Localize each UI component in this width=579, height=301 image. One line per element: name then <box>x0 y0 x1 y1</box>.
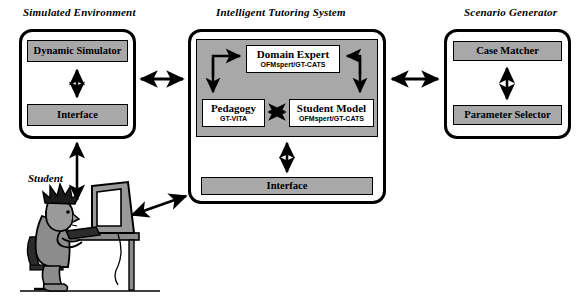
module-student-model-title: Student Model <box>297 103 366 115</box>
module-student-model-subtitle: OFMspert/GT-CATS <box>299 115 364 123</box>
module-pedagogy-title: Pedagogy <box>211 103 256 115</box>
diagram-canvas: Simulated Environment Intelligent Tutori… <box>0 0 579 301</box>
box-dynamic-simulator[interactable]: Dynamic Simulator <box>27 40 128 62</box>
title-scenario-generator: Scenario Generator <box>464 6 557 18</box>
box-case-matcher[interactable]: Case Matcher <box>453 41 562 61</box>
title-simulated-environment: Simulated Environment <box>23 6 136 18</box>
title-intelligent-tutoring-system: Intelligent Tutoring System <box>216 6 346 18</box>
module-domain-expert-title: Domain Expert <box>257 49 329 61</box>
box-dynamic-simulator-label: Dynamic Simulator <box>34 45 122 56</box>
box-parameter-selector-label: Parameter Selector <box>464 109 550 120</box>
arrow-student-its <box>132 196 186 215</box>
box-simulated-interface[interactable]: Interface <box>27 104 128 126</box>
box-simulated-interface-label: Interface <box>57 109 98 120</box>
module-student-model[interactable]: Student Model OFMspert/GT-CATS <box>289 99 374 127</box>
module-pedagogy-subtitle: GT-VITA <box>220 115 247 123</box>
box-parameter-selector[interactable]: Parameter Selector <box>453 105 562 125</box>
box-case-matcher-label: Case Matcher <box>476 45 539 56</box>
label-student: Student <box>28 172 63 184</box>
box-its-interface[interactable]: Interface <box>201 177 373 195</box>
module-domain-expert[interactable]: Domain Expert OFMspert/GT-CATS <box>246 45 340 73</box>
student-illustration <box>20 182 160 291</box>
module-domain-expert-subtitle: OFMspert/GT-CATS <box>261 61 326 69</box>
box-its-interface-label: Interface <box>267 180 308 191</box>
module-pedagogy[interactable]: Pedagogy GT-VITA <box>202 99 265 127</box>
